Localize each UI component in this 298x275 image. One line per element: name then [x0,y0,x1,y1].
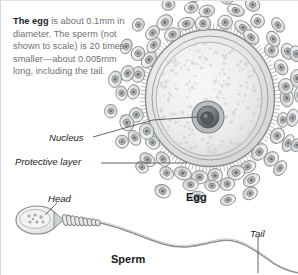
nucleus-leader-line [93,117,197,137]
label-egg: Egg [186,191,207,203]
label-nucleus: Nucleus [49,132,84,143]
label-tail: Tail [250,228,265,239]
caption-lead-bold: The egg [13,16,49,26]
figure-egg-and-sperm: The egg is about 0.1mm in diameter. The … [0,0,298,275]
caption-text: The egg is about 0.1mm in diameter. The … [13,15,133,78]
label-head: Head [48,193,71,204]
label-sperm: Sperm [111,253,145,265]
head-leader-line [45,203,57,215]
label-protective-layer: Protective layer [15,156,81,167]
